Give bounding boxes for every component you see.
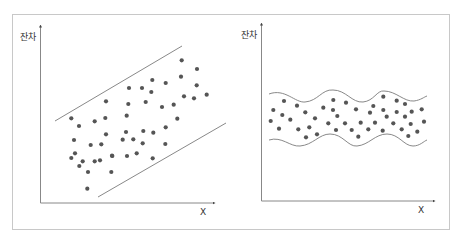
data-point: [180, 58, 184, 62]
data-point: [86, 170, 90, 174]
data-point: [371, 104, 375, 108]
data-point: [85, 187, 89, 191]
data-point: [125, 154, 129, 158]
data-point: [93, 159, 97, 163]
data-point: [104, 132, 108, 136]
data-point: [151, 156, 155, 160]
data-point: [331, 98, 335, 102]
data-point: [420, 107, 424, 111]
data-point: [334, 128, 338, 132]
data-point: [98, 158, 102, 162]
data-point: [356, 135, 360, 139]
right-x-axis-label: X: [418, 205, 424, 215]
data-point: [172, 103, 176, 107]
right-axes: [262, 24, 435, 201]
data-point: [72, 138, 76, 142]
left-x-axis-label: X: [200, 207, 206, 217]
data-point: [422, 120, 426, 124]
band-lower-curve: [269, 134, 427, 146]
data-point: [104, 99, 108, 103]
band-upper-line: [55, 46, 182, 121]
right-scatter-points: [269, 95, 427, 140]
data-point: [131, 137, 135, 141]
data-point: [124, 130, 128, 134]
data-point: [69, 116, 73, 120]
band-upper-curve: [269, 90, 427, 102]
data-point: [295, 104, 299, 108]
residual-plots-figure: 잔차 X 잔차 X: [0, 0, 459, 240]
data-point: [381, 108, 385, 112]
data-point: [350, 128, 354, 132]
data-point: [381, 129, 385, 133]
data-point: [406, 134, 410, 138]
data-point: [77, 124, 81, 128]
left-linear-band: [55, 46, 226, 197]
data-point: [195, 83, 199, 87]
data-point: [303, 110, 307, 114]
data-point: [391, 121, 395, 125]
data-point: [89, 143, 93, 147]
data-point: [344, 101, 348, 105]
data-point: [151, 131, 155, 135]
data-point: [125, 114, 129, 118]
data-point: [343, 121, 347, 125]
data-point: [288, 118, 292, 122]
data-point: [141, 141, 145, 145]
data-point: [366, 127, 370, 131]
data-point: [331, 108, 335, 112]
data-point: [182, 94, 186, 98]
data-point: [175, 117, 179, 121]
band-lower-line: [98, 123, 226, 197]
data-point: [73, 151, 77, 155]
data-point: [359, 121, 363, 125]
data-point: [269, 119, 273, 123]
data-point: [144, 100, 148, 104]
data-point: [415, 130, 419, 134]
data-point: [205, 93, 209, 97]
data-point: [315, 132, 319, 136]
left-scatter-points: [69, 58, 209, 191]
data-point: [400, 127, 404, 131]
data-point: [368, 111, 372, 115]
data-point: [69, 156, 73, 160]
data-point: [179, 75, 183, 79]
right-y-axis-label: 잔차: [241, 30, 257, 40]
data-point: [403, 102, 407, 106]
data-point: [81, 159, 85, 163]
data-point: [395, 99, 399, 103]
data-point: [195, 67, 199, 71]
data-point: [192, 96, 196, 100]
data-point: [121, 138, 125, 142]
data-point: [77, 164, 81, 168]
left-y-axis-label: 잔차: [20, 32, 36, 42]
data-point: [150, 78, 154, 82]
data-point: [271, 108, 275, 112]
data-point: [373, 121, 377, 125]
data-point: [385, 115, 389, 119]
data-point: [307, 125, 311, 129]
data-point: [160, 105, 164, 109]
data-point: [110, 154, 114, 158]
data-point: [163, 142, 167, 146]
data-point: [164, 125, 168, 129]
data-point: [141, 129, 145, 133]
data-point: [277, 127, 281, 131]
data-point: [335, 114, 339, 118]
data-point: [403, 115, 407, 119]
data-point: [109, 170, 113, 174]
data-point: [381, 95, 385, 99]
data-point: [296, 127, 300, 131]
data-point: [280, 113, 284, 117]
data-point: [354, 107, 358, 111]
data-point: [149, 90, 153, 94]
data-point: [304, 135, 308, 139]
data-point: [313, 116, 317, 120]
data-point: [282, 99, 286, 103]
data-point: [140, 86, 144, 90]
data-point: [410, 110, 414, 114]
data-point: [103, 116, 107, 120]
data-point: [93, 119, 97, 123]
data-point: [126, 102, 130, 106]
right-wavy-band: [269, 90, 427, 146]
data-point: [321, 106, 325, 110]
